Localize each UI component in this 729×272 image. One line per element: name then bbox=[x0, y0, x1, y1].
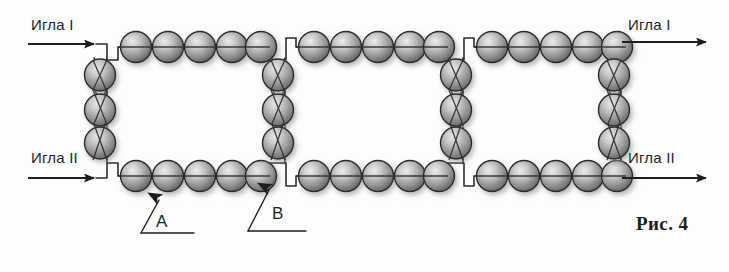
figure-container: Игла I Игла II Игла I Игла II A B Рис. 4 bbox=[0, 0, 729, 272]
thread-overlay bbox=[93, 47, 626, 176]
bead-weaving-diagram bbox=[0, 0, 729, 272]
needle-2-left-label: Игла II bbox=[31, 150, 78, 165]
needle-1-right-label: Игла I bbox=[628, 17, 671, 32]
callout-b-leader-diagonal bbox=[248, 190, 269, 231]
bead bbox=[85, 127, 116, 159]
callout-label-a: A bbox=[156, 213, 167, 230]
bead bbox=[599, 127, 630, 159]
needle-2-right-label: Игла II bbox=[628, 150, 675, 165]
needle-1-left-label: Игла I bbox=[31, 17, 74, 32]
callout-label-b: B bbox=[272, 205, 283, 222]
bead bbox=[441, 127, 472, 159]
figure-caption: Рис. 4 bbox=[636, 214, 688, 233]
bead bbox=[263, 127, 294, 159]
